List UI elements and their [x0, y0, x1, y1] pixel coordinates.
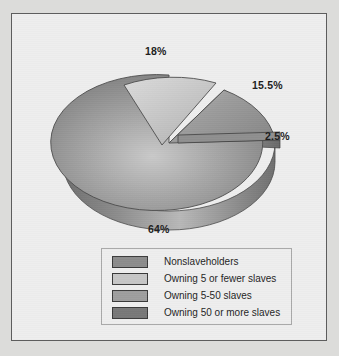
legend-label-owning-50-or-more: Owning 50 or more slaves — [164, 307, 280, 319]
legend-swatch-owning-50-or-more — [112, 307, 148, 319]
scanned-page-background: 18% 15.5% 2.5% 64% Nonslaveholders Ownin… — [0, 0, 339, 356]
legend-label-nonslaveholders: Nonslaveholders — [164, 256, 239, 268]
chart-legend: Nonslaveholders Owning 5 or fewer slaves… — [101, 248, 292, 325]
legend-label-owning-5-50: Owning 5-50 slaves — [164, 290, 252, 302]
legend-swatch-owning-5-50 — [112, 290, 148, 302]
pie-chart: 18% 15.5% 2.5% 64% — [12, 14, 326, 246]
pie-label-owning-5-or-fewer: 18% — [145, 45, 167, 57]
pie-label-owning-5-50: 15.5% — [252, 79, 283, 91]
figure-frame: 18% 15.5% 2.5% 64% Nonslaveholders Ownin… — [11, 13, 327, 341]
legend-item-owning-50-or-more: Owning 50 or more slaves — [112, 306, 280, 319]
legend-swatch-owning-5-or-fewer — [112, 273, 148, 285]
pie-label-nonslaveholders: 64% — [148, 223, 170, 235]
legend-label-owning-5-or-fewer: Owning 5 or fewer slaves — [164, 273, 276, 285]
pie-label-owning-50-or-more: 2.5% — [265, 130, 290, 142]
legend-item-nonslaveholders: Nonslaveholders — [112, 255, 239, 268]
legend-item-owning-5-or-fewer: Owning 5 or fewer slaves — [112, 272, 276, 285]
legend-item-owning-5-50: Owning 5-50 slaves — [112, 289, 252, 302]
legend-swatch-nonslaveholders — [112, 256, 148, 268]
